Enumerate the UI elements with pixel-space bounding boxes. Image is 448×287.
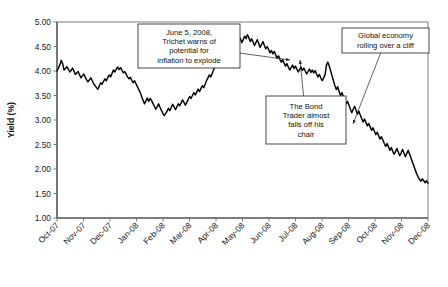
x-tick-label: Nov-07 (61, 220, 87, 246)
chart-container: 5.004.504.003.503.002.502.001.501.00 Oct… (0, 0, 448, 287)
x-tick-label: Oct-07 (36, 220, 61, 245)
annotation-arrowhead (286, 58, 290, 61)
x-tick-label: Dec-08 (406, 220, 432, 246)
yield-chart: 5.004.504.003.503.002.502.001.501.00 Oct… (0, 0, 448, 287)
y-tick-label: 5.00 (35, 17, 52, 27)
x-tick-label: Apr-08 (195, 220, 220, 245)
y-tick-label: 1.50 (35, 189, 52, 199)
y-axis-ticks: 5.004.504.003.503.002.502.001.501.00 (35, 17, 57, 223)
x-tick-label: Sep-08 (326, 220, 352, 246)
x-tick-label: Jan-08 (115, 220, 140, 245)
y-tick-label: 1.00 (35, 213, 52, 223)
annotation-leader-line (240, 53, 290, 60)
annotation-text-line: Trader almost (283, 111, 330, 120)
y-tick-label: 3.50 (35, 91, 52, 101)
annotation-text-line: June 5, 2008, (166, 28, 212, 37)
series-group (57, 35, 428, 183)
annotation-text-line: rolling over a cliff (357, 41, 415, 50)
annotation-text-line: potential for (169, 46, 209, 55)
annotation-text-line: The Bond (290, 102, 323, 111)
annotation-text-line: Global economy (358, 31, 413, 40)
yield-series-line (57, 35, 428, 183)
x-tick-label: Feb-08 (141, 220, 167, 246)
x-tick-label: Mar-08 (168, 220, 194, 246)
x-tick-label: May-08 (220, 220, 247, 247)
annotation-leader-line (353, 53, 381, 124)
y-tick-label: 2.50 (35, 140, 52, 150)
x-tick-label: Oct-08 (354, 220, 379, 245)
annotation-text-line: falls off his (288, 120, 324, 129)
x-tick-label: Nov-08 (379, 220, 405, 246)
y-tick-label: 3.00 (35, 115, 52, 125)
annotation-text-line: inflation to explode (157, 56, 220, 65)
x-tick-label: Dec-07 (88, 220, 114, 246)
y-tick-label: 2.00 (35, 164, 52, 174)
annotation-leader-line (300, 60, 304, 96)
annotations-group: June 5, 2008,Trichet warns ofpotential f… (138, 24, 429, 144)
y-tick-label: 4.00 (35, 66, 52, 76)
x-tick-label: Aug-08 (300, 220, 326, 246)
y-tick-label: 4.50 (35, 42, 52, 52)
annotation-text-line: chair (298, 130, 315, 139)
x-tick-label: Jul-08 (276, 220, 299, 243)
y-axis-title: Yield (%) (6, 102, 16, 138)
x-axis-ticks: Oct-07Nov-07Dec-07Jan-08Feb-08Mar-08Apr-… (36, 218, 432, 247)
annotation-arrowhead (353, 120, 356, 124)
x-tick-label: Jun-08 (248, 220, 273, 245)
annotation-text-line: Trichet warns of (162, 37, 217, 46)
